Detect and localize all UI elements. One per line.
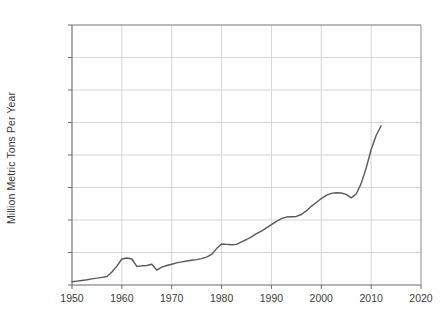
data-series-line xyxy=(72,126,381,282)
gridlines xyxy=(72,25,421,285)
x-tick-label: 1990 xyxy=(249,292,293,304)
chart-container: Million Metric Tons Per Year 05001,0001,… xyxy=(0,0,447,316)
x-tick-label: 2020 xyxy=(399,292,443,304)
x-tick-label: 1960 xyxy=(100,292,144,304)
x-tick-label: 1970 xyxy=(150,292,194,304)
x-tick-label: 2010 xyxy=(349,292,393,304)
x-tick-label: 2000 xyxy=(299,292,343,304)
tick-marks xyxy=(68,25,421,289)
x-tick-label: 1950 xyxy=(50,292,94,304)
x-tick-label: 1980 xyxy=(200,292,244,304)
plot-area xyxy=(0,0,447,316)
